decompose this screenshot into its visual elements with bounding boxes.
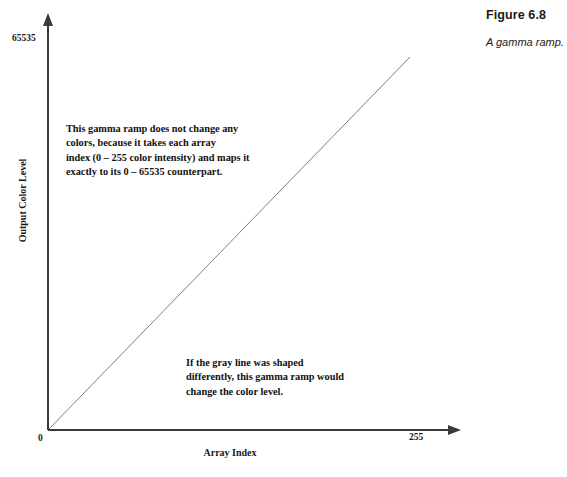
annotation-bottom-line-2: differently, this gamma ramp would — [186, 370, 396, 384]
origin-tick-label: 0 — [38, 433, 43, 443]
annotation-top-line-2: colors, because it takes each array — [66, 136, 304, 150]
annotation-top: This gamma ramp does not change any colo… — [66, 122, 304, 180]
annotation-bottom-line-1: If the gray line was shaped — [186, 356, 396, 370]
y-axis-arrowhead — [43, 13, 53, 26]
figure-caption: Figure 6.8 A gamma ramp. — [486, 8, 566, 49]
annotation-bottom-line-3: change the color level. — [186, 385, 396, 399]
x-axis-arrowhead — [448, 425, 461, 435]
figure-caption-subtitle: A gamma ramp. — [486, 35, 566, 49]
y-axis-title: Output Color Level — [17, 141, 28, 261]
x-axis-title: Array Index — [0, 447, 460, 458]
figure-caption-title: Figure 6.8 — [486, 8, 566, 23]
annotation-top-line-1: This gamma ramp does not change any — [66, 122, 304, 136]
gamma-ramp-plot — [0, 0, 567, 477]
annotation-top-line-4: exactly to its 0 – 65535 counterpart. — [66, 165, 304, 179]
annotation-top-line-3: index (0 – 255 color intensity) and maps… — [66, 151, 304, 165]
x-axis-tick-max: 255 — [409, 432, 423, 442]
figure-container: 65535 0 255 Array Index Output Color Lev… — [0, 0, 567, 477]
annotation-bottom: If the gray line was shaped differently,… — [186, 356, 396, 399]
y-axis-tick-max: 65535 — [12, 33, 36, 43]
